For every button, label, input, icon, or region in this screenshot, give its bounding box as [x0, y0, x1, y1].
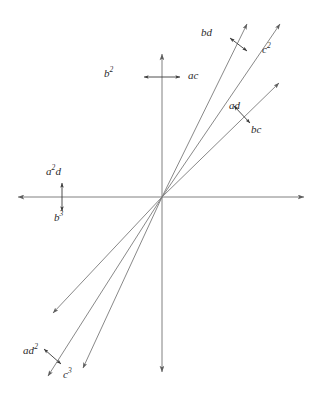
label-c-cubed-exponent: 3 — [68, 366, 72, 375]
label-ad-squared: ad2 — [23, 345, 38, 356]
label-a-squared-d: a2d — [46, 166, 61, 177]
label-b-squared: b2 — [104, 68, 113, 79]
label-c-cubed: c3 — [63, 369, 72, 380]
label-bc: bc — [251, 124, 262, 135]
vector-diagram: bd c2 ad bc b2 ac a2d b3 ad2 c3 — [0, 0, 325, 405]
marker-ad2-c3 — [44, 349, 61, 364]
label-ad: ad — [229, 100, 240, 111]
label-ad-text: ad — [229, 99, 240, 111]
ray-c-cubed — [48, 197, 162, 376]
label-a-squared-d-tail: d — [55, 165, 61, 177]
label-bd-text: bd — [201, 26, 212, 38]
ray-ad-squared — [53, 197, 162, 313]
label-bd: bd — [201, 27, 212, 38]
label-ac-text: ac — [188, 69, 199, 81]
label-c-squared: c2 — [262, 44, 271, 55]
comparison-markers-group — [44, 38, 250, 364]
label-b-cubed: b3 — [54, 212, 63, 223]
diagram-canvas — [0, 0, 325, 405]
label-ad-squared-exponent: 2 — [34, 342, 38, 351]
label-ac: ac — [188, 70, 199, 81]
label-b-cubed-exponent: 3 — [60, 209, 64, 218]
marker-bd — [230, 38, 247, 51]
label-c-squared-exponent: 2 — [267, 41, 271, 50]
label-ad-squared-base: ad — [23, 344, 34, 356]
label-b-squared-exponent: 2 — [110, 65, 114, 74]
ray-opposite-bc — [83, 197, 162, 368]
label-bc-text: bc — [251, 123, 262, 135]
ray-bc — [162, 83, 279, 197]
